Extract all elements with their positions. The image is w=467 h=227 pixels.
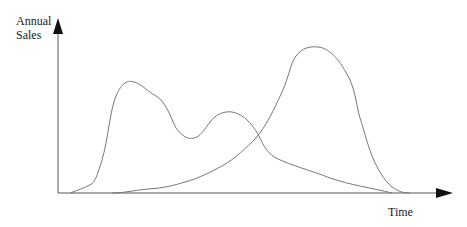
- early-double-peak-curve: [70, 81, 392, 193]
- y-axis-label-line1: Annual: [16, 14, 51, 28]
- diagram-canvas: [0, 0, 467, 227]
- x-axis-arrow-icon: [436, 188, 453, 198]
- y-axis-label-line2: Sales: [16, 28, 51, 42]
- y-axis-arrow-icon: [53, 18, 63, 34]
- y-axis-label: Annual Sales: [16, 14, 51, 42]
- x-axis-label: Time: [388, 205, 413, 219]
- sales-over-time-diagram: Annual Sales Time: [0, 0, 467, 227]
- late-single-peak-curve: [112, 47, 410, 193]
